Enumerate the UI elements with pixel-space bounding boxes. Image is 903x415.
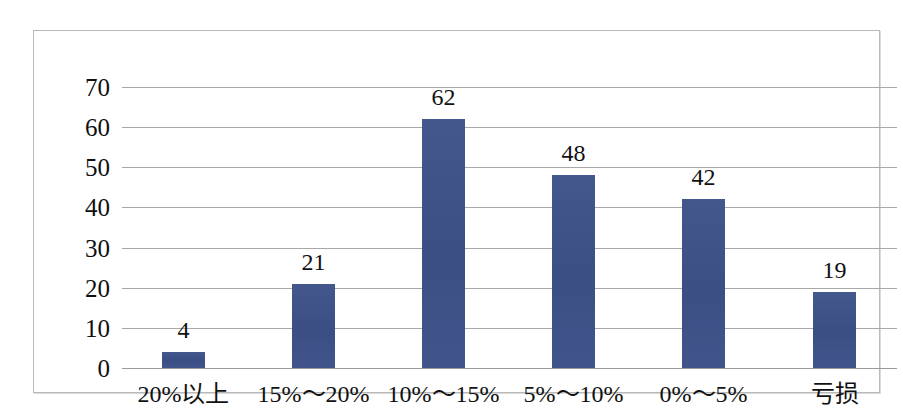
bar-chart-figure: 70 60 50 40 30 20 10 0 4 21 62 48 42 19 … <box>0 0 903 415</box>
y-axis-tick-50: 50 <box>85 155 110 180</box>
bar-value-15-to-20-percent: 21 <box>302 250 326 274</box>
bar-value-10-to-15-percent: 62 <box>432 85 456 109</box>
bar-loss <box>813 292 856 368</box>
x-axis-label-0-to-5-percent: 0%～5% <box>660 382 748 406</box>
gridline-30 <box>122 248 897 249</box>
gridline-40 <box>122 207 897 208</box>
chart-frame: 70 60 50 40 30 20 10 0 4 21 62 48 42 19 … <box>33 30 880 393</box>
gridline-20 <box>122 288 897 289</box>
bar-value-0-to-5-percent: 42 <box>692 165 716 189</box>
bar-15-to-20-percent <box>292 284 335 368</box>
bar-value-20-percent-and-above: 4 <box>178 318 190 342</box>
y-axis-tick-40: 40 <box>85 195 110 220</box>
gridline-70 <box>122 87 897 88</box>
x-axis-label-15-to-20-percent: 15%～20% <box>258 382 370 406</box>
y-axis-tick-0: 0 <box>98 356 111 381</box>
y-axis-tick-10: 10 <box>85 316 110 341</box>
x-axis-label-5-to-10-percent: 5%～10% <box>524 382 624 406</box>
bar-5-to-10-percent <box>552 175 595 368</box>
plot-area: 70 60 50 40 30 20 10 0 4 21 62 48 42 19 … <box>122 87 897 368</box>
y-axis-tick-70: 70 <box>85 75 110 100</box>
bar-10-to-15-percent <box>422 119 465 368</box>
x-axis-label-20-percent-and-above: 20%以上 <box>138 382 230 406</box>
gridline-10 <box>122 328 897 329</box>
bar-value-loss: 19 <box>823 258 847 282</box>
bar-0-to-5-percent <box>682 199 725 368</box>
gridline-60 <box>122 127 897 128</box>
x-axis-label-10-to-15-percent: 10%～15% <box>388 382 500 406</box>
bar-value-5-to-10-percent: 48 <box>562 141 586 165</box>
y-axis-tick-60: 60 <box>85 115 110 140</box>
gridline-0-baseline <box>122 368 897 369</box>
x-axis-label-loss: 亏损 <box>811 382 859 406</box>
y-axis-tick-20: 20 <box>85 276 110 301</box>
y-axis-tick-30: 30 <box>85 236 110 261</box>
bar-20-percent-and-above <box>162 352 205 368</box>
gridline-50 <box>122 167 897 168</box>
